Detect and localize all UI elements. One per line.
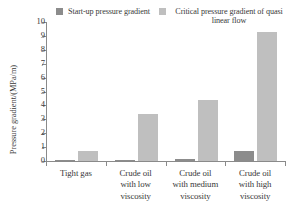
bar [55, 160, 75, 161]
x-axis-tick-mark [285, 162, 286, 166]
x-axis-category-label-line: Crude oil [166, 168, 226, 179]
bar [138, 114, 158, 161]
x-axis-category-label-line: viscosity [106, 191, 166, 202]
y-axis-tick-label: 3 [41, 113, 45, 124]
bar-chart-figure: Start-up pressure gradient Critical pres… [0, 0, 295, 216]
y-axis-tick-label: 0 [41, 155, 45, 166]
y-axis-tick-label: 9 [41, 30, 45, 41]
x-axis-category-label-line: with low [106, 179, 166, 190]
y-axis-tick-label: 6 [41, 72, 45, 83]
y-axis-tick-label: 1 [41, 141, 45, 152]
bar-group [167, 22, 227, 161]
x-axis-category-label-line: with high [225, 179, 285, 190]
x-axis-category-label: Crude oilwith highviscosity [225, 168, 285, 202]
bar [198, 100, 218, 161]
y-axis-title: Pressure gradient/(MPa/m) [9, 40, 18, 179]
y-axis-tick-label: 5 [41, 86, 45, 97]
bar [234, 151, 254, 161]
legend-swatch-critical-pressure-gradient [159, 8, 166, 15]
bar [257, 32, 277, 161]
x-axis-tick-mark [46, 162, 47, 166]
x-axis-tick-mark [225, 162, 226, 166]
legend-entry-startup-pressure-gradient: Start-up pressure gradient [56, 7, 152, 16]
x-axis-category-label-line: with medium [166, 179, 226, 190]
bar-group [226, 22, 286, 161]
bar-series-container [47, 22, 286, 161]
plot-area: 012345678910 [46, 22, 286, 162]
x-axis-category-label: Crude oilwith lowviscosity [106, 168, 166, 202]
x-axis-category-label-line: viscosity [166, 191, 226, 202]
y-axis-tick-label: 10 [36, 16, 45, 27]
legend-label-startup-pressure-gradient: Start-up pressure gradient [66, 7, 152, 16]
bar [115, 160, 135, 161]
bar [78, 151, 98, 161]
y-axis-tick-label: 7 [41, 58, 45, 69]
legend-swatch-startup-pressure-gradient [56, 8, 63, 15]
x-axis-category-label-line: Tight gas [46, 168, 106, 179]
y-axis-tick-label: 8 [41, 44, 45, 55]
x-axis-tick-mark [106, 162, 107, 166]
bar-group [47, 22, 107, 161]
y-axis-tick-label: 2 [41, 127, 45, 138]
x-axis: Tight gasCrude oilwith lowviscosityCrude… [46, 162, 285, 216]
x-axis-category-label-line: Crude oil [225, 168, 285, 179]
bar-group [107, 22, 167, 161]
x-axis-category-label-line: Crude oil [106, 168, 166, 179]
bar [175, 159, 195, 161]
y-axis-tick-label: 4 [41, 99, 45, 110]
x-axis-tick-mark [166, 162, 167, 166]
x-axis-category-label: Tight gas [46, 168, 106, 179]
x-axis-category-label: Crude oilwith mediumviscosity [166, 168, 226, 202]
x-axis-category-label-line: viscosity [225, 191, 285, 202]
